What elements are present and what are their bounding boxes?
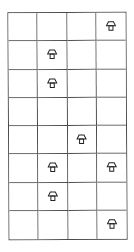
board-cell-r3-c1[interactable] [38,98,67,126]
board-cell-r0-c1[interactable] [38,13,67,41]
board-cell-r1-c1[interactable] [38,41,67,69]
board-cell-r6-c1[interactable] [39,182,68,210]
board-cell-r0-c3[interactable] [96,13,125,41]
board-cell-r5-c0[interactable] [9,154,38,182]
mushroom-icon [46,49,57,60]
board-cell-r2-c3[interactable] [96,69,125,97]
board-cell-r7-c1[interactable] [39,211,68,239]
board-cell-r3-c2[interactable] [67,98,96,126]
board-cell-r6-c0[interactable] [9,183,38,211]
board-cell-r2-c1[interactable] [38,70,67,98]
mushroom-icon [47,162,58,173]
board-cell-r7-c2[interactable] [68,211,97,239]
board-cell-r1-c0[interactable] [9,41,38,69]
board-cell-r2-c0[interactable] [9,70,38,98]
mushroom-icon [47,78,58,89]
mushroom-icon [106,162,117,173]
board-cell-r4-c0[interactable] [9,126,38,154]
board-cell-r1-c3[interactable] [96,41,125,69]
board-cell-r5-c2[interactable] [68,154,97,182]
board-cell-r6-c2[interactable] [68,182,97,210]
board-cell-r5-c3[interactable] [97,154,126,182]
board-cell-r1-c2[interactable] [67,41,96,69]
board-cell-r0-c0[interactable] [8,13,37,41]
board-cell-r6-c3[interactable] [97,182,126,210]
mushroom-icon [106,219,117,230]
board-cell-r7-c3[interactable] [97,210,126,238]
board-cell-r0-c2[interactable] [67,13,96,41]
board-cell-r3-c0[interactable] [9,98,38,126]
mushroom-icon [105,21,116,32]
mushroom-icon [47,191,58,202]
board-cell-r3-c3[interactable] [97,97,126,125]
board-cell-r4-c2[interactable] [68,126,97,154]
board-cell-r4-c3[interactable] [97,126,126,154]
board-cell-r5-c1[interactable] [38,154,67,182]
game-board [7,12,127,241]
board-cell-r4-c1[interactable] [38,126,67,154]
board-cell-r7-c0[interactable] [9,211,38,239]
board-cell-r2-c2[interactable] [67,69,96,97]
mushroom-icon [76,134,87,145]
